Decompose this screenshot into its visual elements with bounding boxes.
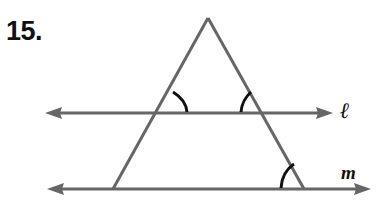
arrowhead-left-icon <box>45 107 62 119</box>
triangle-left-side <box>113 18 208 189</box>
line-m-label: m <box>341 162 356 184</box>
arrowhead-right-icon <box>316 107 333 119</box>
line-m <box>47 183 371 195</box>
triangle-right-side <box>208 18 304 189</box>
line-l <box>45 107 333 119</box>
angle-arc-1 <box>173 92 187 112</box>
arrowhead-left-icon <box>47 183 64 195</box>
geometry-figure <box>0 0 382 202</box>
angle-arc-2 <box>241 92 251 112</box>
line-l-label: ℓ <box>340 98 349 124</box>
arrowhead-right-icon <box>354 183 371 195</box>
